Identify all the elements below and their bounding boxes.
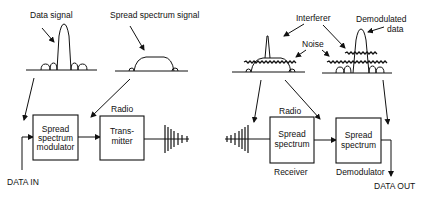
data-signal-label: Data signal (30, 10, 73, 20)
spread-spectrum-diagram: Data signal Spread spectrum signal Inter… (0, 0, 422, 201)
noise-arrow-right (322, 50, 329, 56)
transmitter-label-line1: Trans- (110, 126, 134, 136)
receiver-label-line1: Spread (278, 129, 306, 139)
demodulator-label-line1: Spread (345, 130, 373, 140)
demodulator-caption: Demodulator (336, 167, 385, 177)
data-in-line (22, 137, 33, 170)
demodulated-data-label-line2: data (387, 24, 404, 34)
receive-antenna-icon (225, 125, 270, 153)
transmit-antenna-icon (144, 125, 189, 153)
data-in-label: DATA IN (7, 177, 39, 187)
interferer-label: Interferer (296, 13, 331, 23)
data-out-label: DATA OUT (374, 181, 415, 191)
data-signal-to-modulator-arrow (24, 78, 34, 120)
spread-spectrum-signal-label: Spread spectrum signal (110, 10, 199, 20)
noise-label: Noise (302, 39, 324, 49)
demodulator-block: Spread spectrum (336, 118, 381, 163)
tx-radio-label: Radio (111, 104, 133, 114)
receiver-label-line2: spectrum (275, 139, 310, 149)
received-spectrum (232, 36, 305, 72)
transmitter-block: Trans- mitter (100, 116, 144, 160)
demodulated-data-label-line1: Demodulated (356, 14, 407, 24)
data-signal-arrow (42, 28, 54, 42)
interferer-arrow-left (284, 24, 304, 36)
rx-radio-label: Radio (279, 106, 301, 116)
receiver-block: Spread spectrum (270, 117, 314, 163)
modulator-block: Spread spectrum modulator (33, 115, 78, 160)
transmitter-label-line2: mitter (111, 136, 132, 146)
noise-arrow-left (296, 50, 306, 57)
demodulated-spectrum-to-demodulator-arrow (383, 80, 388, 124)
receiver-caption: Receiver (274, 167, 308, 177)
data-signal-spectrum (26, 24, 97, 70)
demodulator-label-line2: spectrum (341, 140, 376, 150)
spread-spectrum-signal-arrow (130, 26, 144, 50)
spread-spectrum-signal-spectrum (115, 57, 188, 71)
modulator-label-line3: modulator (37, 142, 75, 152)
demodulated-data-arrow (368, 27, 384, 32)
interferer-arrow-right (323, 25, 345, 48)
received-spectrum-to-antenna-arrow (254, 80, 261, 122)
